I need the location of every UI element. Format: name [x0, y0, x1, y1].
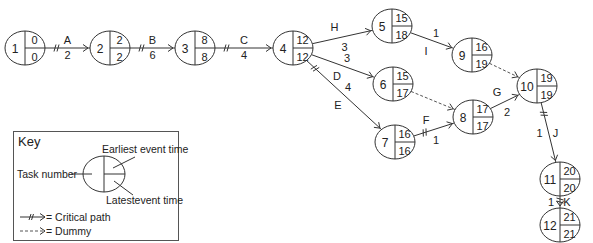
- task-number: 2: [97, 42, 104, 56]
- task-label: K: [563, 196, 571, 208]
- edge-task-i: I1: [410, 27, 453, 57]
- edge-task-e: E4: [307, 60, 382, 129]
- key-dummy-label: = Dummy: [46, 225, 92, 237]
- edge-task-d: D3: [311, 52, 374, 82]
- task-duration: 1: [433, 27, 439, 39]
- earliest-event-time: 2: [116, 34, 122, 46]
- task-duration: 4: [345, 81, 351, 93]
- task-label: B: [149, 34, 156, 46]
- task-label: I: [424, 45, 427, 57]
- edge-dummy-6-8: [411, 91, 455, 110]
- task-number: 5: [379, 20, 386, 34]
- task-number: 4: [280, 42, 287, 56]
- edge-task-c: C4: [215, 34, 273, 61]
- event-node-10: 101919: [517, 69, 557, 103]
- key-title: Key: [18, 134, 41, 149]
- task-duration: 4: [241, 49, 247, 61]
- edge-task-j: J1: [536, 103, 558, 163]
- task-label: D: [333, 70, 341, 82]
- event-node-1: 100: [5, 31, 45, 65]
- task-label: E: [334, 99, 341, 111]
- event-node-3: 388: [175, 31, 215, 65]
- task-label: H: [331, 21, 339, 33]
- latest-event-time: 21: [563, 228, 575, 240]
- earliest-event-time: 17: [476, 103, 488, 115]
- edge-dummy-9-10: [489, 63, 519, 78]
- task-number: 12: [543, 219, 557, 233]
- event-node-2: 222: [90, 31, 130, 65]
- task-duration: 1: [536, 127, 542, 139]
- earliest-event-time: 19: [540, 72, 552, 84]
- latest-event-time: 17: [476, 120, 488, 132]
- task-number: 7: [382, 136, 389, 150]
- task-duration: 6: [149, 49, 155, 61]
- earliest-event-time: 15: [396, 70, 408, 82]
- task-duration: 2: [64, 49, 70, 61]
- task-number: 1: [12, 42, 19, 56]
- key-task-number-label: Task number: [17, 168, 78, 180]
- latest-event-time: 20: [563, 182, 575, 194]
- latest-event-time: 12: [296, 51, 308, 63]
- task-number: 9: [459, 49, 466, 63]
- earliest-event-time: 21: [563, 211, 575, 223]
- event-node-8: 81717: [453, 100, 493, 134]
- event-node-4: 41212: [273, 31, 313, 65]
- latest-event-time: 19: [475, 58, 487, 70]
- key-latest-event-time-label: Latestevent time: [106, 194, 183, 206]
- event-node-12: 122121: [540, 208, 580, 242]
- latest-event-time: 19: [540, 89, 552, 101]
- task-number: 10: [520, 80, 534, 94]
- latest-event-time: 2: [116, 51, 122, 63]
- task-number: 8: [460, 111, 467, 125]
- event-node-6: 61517: [373, 67, 413, 101]
- task-number: 6: [380, 78, 387, 92]
- task-duration: 1: [433, 134, 439, 146]
- task-label: A: [64, 34, 72, 46]
- earliest-event-time: 12: [296, 34, 308, 46]
- task-duration: 1: [548, 196, 554, 208]
- key-critical-path-label: = Critical path: [46, 211, 111, 223]
- event-node-11: 112020: [540, 162, 580, 196]
- task-label: C: [240, 34, 248, 46]
- task-label: F: [423, 114, 430, 126]
- earliest-event-time: 16: [475, 41, 487, 53]
- edge-task-k: K1: [548, 196, 571, 208]
- event-node-9: 91619: [452, 38, 492, 72]
- key-legend: Key Task number Earliest event time Late…: [14, 132, 189, 241]
- earliest-event-time: 16: [398, 128, 410, 140]
- task-number: 3: [182, 42, 189, 56]
- earliest-event-time: 0: [31, 34, 37, 46]
- activity-network-diagram: A2B6C4H3D3E4I1F1G2J1K1 10022238841212515…: [0, 0, 593, 243]
- task-label: G: [493, 86, 502, 98]
- edge-task-h: H3: [312, 21, 372, 53]
- latest-event-time: 17: [396, 87, 408, 99]
- event-node-5: 51518: [372, 9, 412, 43]
- latest-event-time: 18: [395, 29, 407, 41]
- latest-event-time: 8: [201, 51, 207, 63]
- earliest-event-time: 8: [201, 34, 207, 46]
- earliest-event-time: 15: [395, 12, 407, 24]
- task-label: J: [553, 127, 559, 139]
- earliest-event-time: 20: [563, 165, 575, 177]
- task-duration: 2: [504, 106, 510, 118]
- edge-task-g: G2: [490, 86, 519, 118]
- key-earliest-event-time-label: Earliest event time: [102, 143, 189, 155]
- event-node-7: 71616: [375, 125, 415, 159]
- task-number: 11: [544, 173, 557, 187]
- task-duration: 3: [344, 52, 350, 64]
- edge-task-a: A2: [45, 34, 90, 61]
- latest-event-time: 0: [31, 51, 37, 63]
- edge-task-f: F1: [414, 114, 455, 146]
- latest-event-time: 16: [398, 145, 410, 157]
- edge-task-b: B6: [130, 34, 175, 61]
